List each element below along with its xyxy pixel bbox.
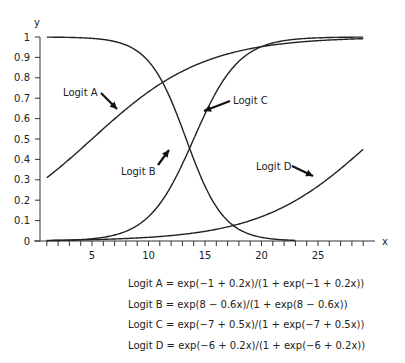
label-logit-a: Logit A	[63, 87, 98, 98]
x-tick-label: 10	[142, 250, 155, 261]
curve-logit-c	[47, 37, 363, 241]
equation-logit-c: Logit C = exp(−7 + 0.5x)/(1 + exp(−7 + 0…	[128, 315, 365, 336]
y-tick-label: 0.7	[14, 93, 30, 104]
y-tick-label: 0.9	[14, 52, 30, 63]
curve-logit-a	[47, 39, 363, 178]
x-tick-label: 20	[255, 250, 268, 261]
y-tick-label: 0.3	[14, 174, 30, 185]
x-tick-label: 5	[89, 250, 95, 261]
equations: Logit A = exp(−1 + 0.2x)/(1 + exp(−1 + 0…	[128, 274, 365, 356]
label-logit-b: Logit B	[121, 166, 156, 177]
equation-logit-a: Logit A = exp(−1 + 0.2x)/(1 + exp(−1 + 0…	[128, 274, 365, 295]
logit-chart: 00.10.20.30.40.50.60.70.80.91510152025 L…	[0, 0, 405, 270]
y-tick-label: 0.2	[14, 195, 30, 206]
x-axis-label: x	[382, 236, 388, 247]
x-tick-label: 15	[199, 250, 212, 261]
y-tick-label: 0.8	[14, 72, 30, 83]
y-tick-label: 0.5	[14, 134, 30, 145]
y-tick-label: 0	[24, 236, 30, 247]
equation-logit-b: Logit B = exp(8 − 0.6x)/(1 + exp(8 − 0.6…	[128, 295, 365, 316]
y-tick-label: 0.4	[14, 154, 30, 165]
curves	[47, 37, 363, 241]
y-tick-label: 0.1	[14, 215, 30, 226]
label-logit-c: Logit C	[233, 95, 268, 106]
y-tick-label: 0.6	[14, 113, 30, 124]
curve-logit-b	[47, 37, 296, 240]
label-logit-d: Logit D	[256, 161, 292, 172]
equation-logit-d: Logit D = exp(−6 + 0.2x)/(1 + exp(−6 + 0…	[128, 336, 365, 357]
x-tick-label: 25	[312, 250, 325, 261]
annotations: Logit A Logit B Logit C Logit D y x	[34, 17, 388, 247]
curve-logit-d	[47, 149, 363, 240]
y-tick-label: 1	[24, 32, 30, 43]
y-axis-label: y	[34, 17, 40, 28]
